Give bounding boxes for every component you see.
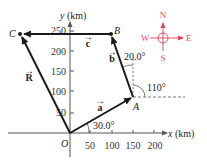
angle-arc-20 <box>122 65 133 67</box>
y-ticks <box>70 31 74 113</box>
vector-diagram: 50 100 150 200 x (km) 50 100 150 200 250… <box>0 0 207 161</box>
angle-label-20: 20.0° <box>124 51 146 62</box>
x-tick-100: 100 <box>105 140 120 151</box>
y-tick-200: 200 <box>51 46 66 57</box>
compass-S-label: S <box>160 53 165 63</box>
point-C-label: C <box>9 28 16 39</box>
x-tick-150: 150 <box>126 140 141 151</box>
svg-text:b: b <box>109 53 115 64</box>
angle-arc-a <box>87 123 89 133</box>
y-tick-150: 150 <box>51 66 66 77</box>
vector-a-label: → a <box>95 95 105 113</box>
point-B-dot <box>109 32 113 36</box>
point-A-label: A <box>132 101 140 112</box>
x-tick-50: 50 <box>85 140 95 151</box>
angle-arc-110 <box>133 85 145 97</box>
point-C-dot <box>18 32 22 36</box>
x-tick-200: 200 <box>148 140 163 151</box>
svg-text:c: c <box>86 38 91 49</box>
vector-R-label: → R <box>24 65 34 83</box>
x-axis-label: x (km) <box>167 128 194 140</box>
compass-rose <box>150 23 183 51</box>
point-B-label: B <box>114 25 120 36</box>
angle-label-30: 30.0° <box>93 120 115 131</box>
angle-label-110: 110° <box>147 82 166 93</box>
svg-text:R: R <box>25 72 33 83</box>
y-tick-100: 100 <box>51 86 66 97</box>
y-axis-label: y (km) <box>59 10 86 22</box>
compass-E-label: E <box>186 33 192 43</box>
compass-W-label: W <box>141 33 150 43</box>
vector-b-label: → b <box>107 46 117 64</box>
compass-N-label: N <box>160 10 167 20</box>
vector-c-label: → c <box>83 31 93 49</box>
origin-label: O <box>61 138 68 149</box>
svg-text:a: a <box>98 102 103 113</box>
